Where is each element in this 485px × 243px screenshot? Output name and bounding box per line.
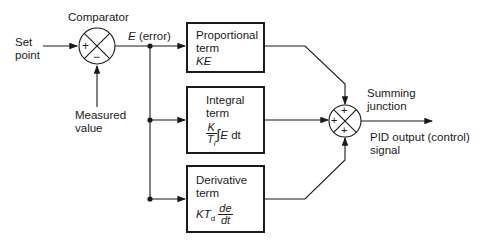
comparator-label: Comparator — [68, 11, 129, 24]
comparator-plus-sign: + — [82, 40, 89, 53]
proportional-term-block: Proportional term KE — [186, 22, 265, 73]
pid-output-label-1: PID output (control) — [370, 131, 470, 144]
proportional-to-sum-arrow — [264, 46, 345, 104]
junction-dot — [147, 43, 152, 48]
derivative-formula: KTd dedt — [196, 203, 233, 226]
measured-value-label-2: value — [75, 122, 103, 135]
summing-junction-label-1: Summing — [367, 87, 416, 100]
junction-dot — [147, 117, 152, 122]
comparator-minus-sign: − — [93, 51, 100, 64]
error-label: E (error) — [128, 30, 171, 43]
derivative-to-sum-arrow — [264, 138, 345, 199]
junction-dot — [147, 196, 152, 201]
pid-output-label-2: signal — [370, 144, 400, 157]
derivative-term-block: Derivative term KTd dedt — [186, 165, 265, 233]
summing-junction-label-2: junction — [367, 100, 407, 113]
integral-formula: KTi∫E dt — [206, 122, 241, 149]
sum-plus-bottom: + — [341, 124, 347, 137]
measured-value-label-1: Measured — [75, 109, 126, 122]
integral-term-block: Integral term KTi∫E dt — [186, 86, 265, 154]
set-point-label-1: Set — [15, 36, 32, 49]
sum-plus-top: + — [341, 104, 347, 117]
set-point-label-2: point — [15, 49, 40, 62]
sum-plus-left: + — [331, 114, 337, 127]
